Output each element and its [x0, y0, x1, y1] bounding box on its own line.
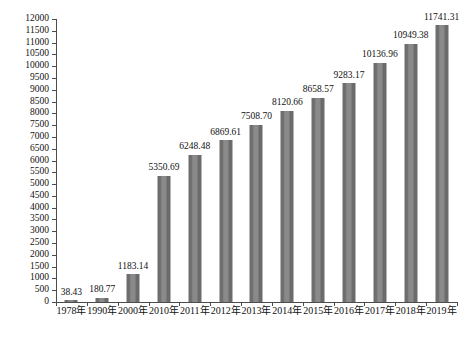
x-axis-category-label: 1990年	[87, 306, 117, 316]
bar-group: 180.771990年	[87, 19, 118, 302]
x-axis-category-label: 2015年	[303, 306, 333, 316]
plot-area: 0500100015002000250030003500400045005000…	[56, 19, 457, 303]
y-axis-tick-label: 5000	[30, 179, 49, 189]
bar	[404, 44, 417, 302]
bar	[127, 274, 140, 302]
bar-value-label: 180.77	[89, 285, 115, 295]
x-axis-category-label: 2011年	[180, 306, 210, 316]
bar	[343, 83, 356, 302]
bar-value-label: 6248.48	[179, 142, 210, 152]
bar	[435, 25, 448, 302]
y-axis-tick-label: 9500	[30, 73, 49, 83]
y-axis-tick-label: 7500	[30, 120, 49, 130]
y-axis-tick-label: 1000	[30, 274, 49, 284]
x-axis-line	[56, 302, 457, 303]
y-axis-tick-label: 1500	[30, 262, 49, 272]
y-axis-tick-label: 3500	[30, 215, 49, 225]
x-axis-tick	[457, 302, 458, 306]
bar-group: 11741.312019年	[426, 19, 457, 302]
bar	[65, 300, 78, 302]
y-axis-tick-label: 4500	[30, 191, 49, 201]
y-axis-tick-label: 12000	[25, 14, 49, 24]
x-axis-category-label: 2018年	[396, 306, 426, 316]
bar	[188, 155, 201, 302]
bar-value-label: 1183.14	[118, 262, 149, 272]
y-axis-tick-label: 11000	[26, 38, 49, 48]
y-axis-tick-label: 9000	[30, 85, 49, 95]
y-axis-tick-label: 2500	[30, 238, 49, 248]
y-axis-tick-label: 8000	[30, 109, 49, 119]
y-axis-tick-label: 6500	[30, 144, 49, 154]
y-axis-tick-label: 10000	[25, 61, 49, 71]
bar-value-label: 10949.38	[393, 31, 429, 41]
bar-group: 5350.692010年	[149, 19, 180, 302]
bar-value-label: 9283.17	[334, 71, 365, 81]
bar-value-label: 11741.31	[424, 13, 459, 23]
bar-group: 1183.142000年	[118, 19, 149, 302]
x-axis-category-label: 2019年	[427, 306, 457, 316]
x-axis-category-label: 1978年	[56, 306, 86, 316]
bar	[250, 125, 263, 302]
bar	[96, 298, 109, 302]
bar-group: 8658.572015年	[303, 19, 334, 302]
bar-group: 8120.662014年	[272, 19, 303, 302]
bar-value-label: 8120.66	[272, 98, 303, 108]
y-axis-tick-label: 4000	[30, 203, 49, 213]
y-axis-tick-label: 0	[44, 297, 49, 307]
y-axis-tick-label: 3000	[30, 227, 49, 237]
bar-value-label: 8658.57	[303, 85, 334, 95]
y-axis-tick-label: 6000	[30, 156, 49, 166]
bar-group: 6248.482011年	[179, 19, 210, 302]
bar-group: 9283.172016年	[334, 19, 365, 302]
bar-group: 10136.962017年	[364, 19, 395, 302]
bar	[373, 63, 386, 302]
x-axis-category-label: 2013年	[241, 306, 271, 316]
bar	[312, 98, 325, 302]
y-axis-tick-label: 2000	[30, 250, 49, 260]
x-axis-category-label: 2000年	[118, 306, 148, 316]
bar-value-label: 6869.61	[210, 128, 241, 138]
bar-group: 10949.382018年	[395, 19, 426, 302]
bar-group: 38.431978年	[56, 19, 87, 302]
x-axis-category-label: 2017年	[365, 306, 395, 316]
bar-value-label: 7508.70	[241, 112, 272, 122]
y-axis-tick-label: 500	[35, 285, 49, 295]
x-axis-category-label: 2014年	[272, 306, 302, 316]
bar-chart: 0500100015002000250030003500400045005000…	[0, 0, 472, 338]
bar-group: 7508.702013年	[241, 19, 272, 302]
x-axis-category-label: 2016年	[334, 306, 364, 316]
x-axis-category-label: 2010年	[149, 306, 179, 316]
y-axis-tick-label: 5500	[30, 168, 49, 178]
bar-group: 6869.612012年	[210, 19, 241, 302]
bar-value-label: 5350.69	[149, 163, 180, 173]
bar-value-label: 10136.96	[362, 50, 398, 60]
y-axis-tick-label: 7000	[30, 132, 49, 142]
bar	[281, 111, 294, 303]
bar-series: 38.431978年180.771990年1183.142000年5350.69…	[56, 19, 457, 302]
y-axis-tick-label: 10500	[25, 50, 49, 60]
bar	[157, 176, 170, 302]
x-axis-category-label: 2012年	[211, 306, 241, 316]
y-axis-tick-label: 8500	[30, 97, 49, 107]
y-axis-tick-label: 11500	[26, 26, 49, 36]
bar-value-label: 38.43	[61, 288, 82, 298]
bar	[219, 140, 232, 302]
